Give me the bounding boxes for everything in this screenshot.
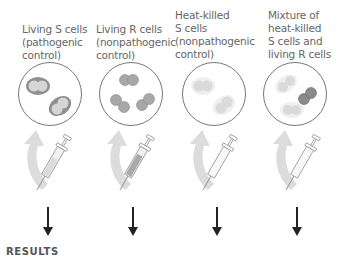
down-arrow-icon	[216, 207, 218, 229]
results-heading: RESULTS	[6, 246, 59, 257]
petri-dish-heat-killed-s	[182, 62, 246, 126]
label-heat-killed-s: Heat-killed S cells (nonpathogenic contr…	[175, 9, 255, 61]
syringe-injection-living-s	[18, 128, 74, 200]
syringe-injection-mixture	[267, 128, 323, 200]
petri-dish-living-r	[99, 62, 163, 126]
label-mixture: Mixture of heat-killed S cells and livin…	[268, 9, 331, 61]
petri-dish-living-s	[18, 62, 82, 126]
syringe-injection-heat-killed-s	[184, 128, 240, 200]
dead-s-cell-pairs-icon	[183, 63, 247, 127]
syringe-injection-living-r	[101, 128, 157, 200]
down-arrow-icon	[132, 207, 134, 229]
label-living-s: Living S cells (pathogenic control)	[22, 23, 87, 62]
s-cell-pairs-icon	[19, 63, 83, 127]
mixed-cell-pairs-icon	[264, 63, 328, 127]
label-living-r: Living R cells (nonpathogenic control)	[96, 23, 176, 62]
down-arrow-icon	[296, 207, 298, 229]
r-cell-pairs-icon	[100, 63, 164, 127]
petri-dish-mixture	[263, 62, 327, 126]
down-arrow-icon	[47, 207, 49, 229]
